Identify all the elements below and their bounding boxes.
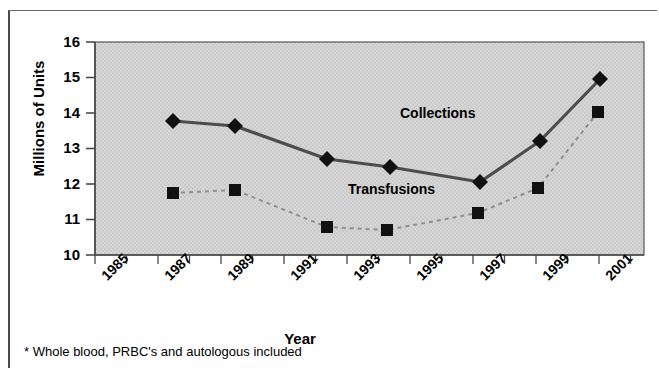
series-annotation-collections: Collections [400,105,475,121]
y-tick-label-12: 12 [46,175,80,192]
footnote-text: * Whole blood, PRBC's and autologous inc… [24,344,302,359]
y-axis-ticks [86,42,95,255]
plot-area [95,42,644,255]
y-tick-label-13: 13 [46,139,80,156]
y-tick-label-11: 11 [46,210,80,227]
line-chart-canvas [0,0,659,369]
y-tick-label-10: 10 [46,246,80,263]
chart-figure: Millions of Units 16 15 14 13 12 11 10 1… [0,0,659,369]
series-annotation-transfusions: Transfusions [348,181,435,197]
y-axis-title: Millions of Units [30,24,47,214]
y-tick-label-15: 15 [46,68,80,85]
y-tick-label-16: 16 [46,33,80,50]
y-tick-label-14: 14 [46,104,80,121]
